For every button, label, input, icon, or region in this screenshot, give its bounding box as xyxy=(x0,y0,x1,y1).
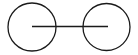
diagram-canvas xyxy=(0,0,138,55)
